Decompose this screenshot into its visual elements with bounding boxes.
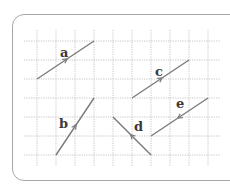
- vector-b: b: [56, 98, 94, 155]
- vector-label: d: [134, 119, 143, 134]
- vector-label: a: [60, 45, 69, 60]
- vector-a: a: [37, 41, 94, 79]
- vector-e: e: [151, 96, 208, 136]
- vector-label: b: [59, 116, 68, 131]
- vector-label: e: [176, 96, 184, 111]
- grid-lines: [24, 30, 220, 166]
- vector-label: c: [155, 64, 163, 79]
- vector-grid-diagram: abcde: [0, 0, 230, 186]
